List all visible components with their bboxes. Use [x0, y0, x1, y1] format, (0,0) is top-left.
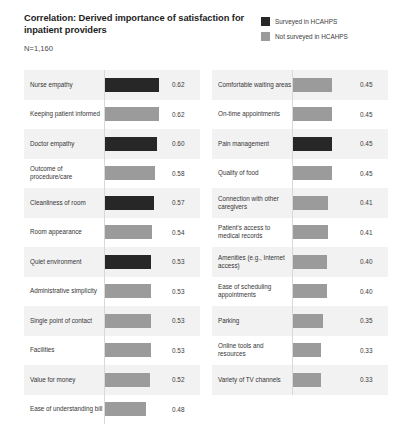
legend-item-surveyed: Surveyed in HCAHPS — [261, 16, 385, 26]
chart-value-label: 0.53 — [170, 258, 200, 265]
chart-bar — [292, 107, 332, 121]
chart-row: Pain management0.45 — [212, 129, 388, 159]
chart-bar-track — [104, 336, 170, 366]
chart-bar — [292, 196, 328, 210]
legend-item-not_surveyed: Not surveyed in HCAHPS — [261, 31, 385, 41]
chart-row: Ease of scheduling appointments0.40 — [212, 277, 388, 307]
chart-bar — [292, 137, 332, 151]
chart-bar-track — [292, 188, 358, 218]
legend-swatch-icon — [261, 32, 270, 41]
chart-row-label: Nurse empathy — [24, 81, 104, 89]
chart-header: Correlation: Derived importance of satis… — [24, 12, 264, 54]
chart-row: Comfortable waiting areas0.45 — [212, 70, 388, 100]
chart-row: Doctor empathy0.60 — [24, 129, 200, 159]
chart-value-label: 0.41 — [358, 199, 388, 206]
chart-bar — [292, 373, 321, 387]
chart-row: Patient's access to medical records0.41 — [212, 218, 388, 248]
chart-bar — [104, 284, 151, 298]
chart-bar-track — [104, 395, 170, 424]
chart-row: Online tools and resources0.33 — [212, 336, 388, 366]
chart-row-label: Outcome of procedure/care — [24, 165, 104, 181]
chart-row-label: Parking — [212, 317, 292, 325]
chart-value-label: 0.45 — [358, 81, 388, 88]
chart-row-label: Quiet environment — [24, 258, 104, 266]
chart-row: Keeping patient informed0.62 — [24, 100, 200, 130]
chart-bar — [104, 255, 151, 269]
chart-bar — [292, 166, 332, 180]
chart-bar — [104, 196, 154, 210]
sample-size-label: N=1,160 — [24, 44, 264, 54]
chart-legend: Surveyed in HCAHPSNot surveyed in HCAHPS — [261, 16, 385, 46]
chart-row-label: Single point of contact — [24, 317, 104, 325]
chart-value-label: 0.41 — [358, 229, 388, 236]
chart-row-label: Connection with other caregivers — [212, 195, 292, 211]
chart-row: Ease of understanding bill0.48 — [24, 395, 200, 424]
legend-swatch-icon — [261, 17, 270, 26]
chart-bar — [104, 373, 150, 387]
chart-bar — [104, 78, 159, 92]
chart-value-label: 0.53 — [170, 288, 200, 295]
chart-baseline — [292, 70, 293, 395]
chart-bar — [104, 343, 151, 357]
chart-value-label: 0.53 — [170, 317, 200, 324]
chart-row: Parking0.35 — [212, 306, 388, 336]
chart-row-label: Amenities (e.g., Internet access) — [212, 254, 292, 270]
chart-bar-track — [292, 70, 358, 100]
chart-row-label: Cleanliness of room — [24, 199, 104, 207]
chart-row-label: Administrative simplicity — [24, 287, 104, 295]
chart-row: Nurse empathy0.62 — [24, 70, 200, 100]
chart-bar — [292, 255, 327, 269]
chart-row: Amenities (e.g., Internet access)0.40 — [212, 247, 388, 277]
chart-row-label: Room appearance — [24, 228, 104, 236]
chart-row-label: Online tools and resources — [212, 342, 292, 358]
chart-row: Quiet environment0.53 — [24, 247, 200, 277]
chart-bar-track — [104, 247, 170, 277]
chart-bar — [104, 107, 159, 121]
chart-bar — [292, 284, 327, 298]
chart-row: Outcome of procedure/care0.58 — [24, 159, 200, 189]
chart-bar-track — [104, 218, 170, 248]
chart-column-right: Comfortable waiting areas0.45On-time app… — [212, 70, 388, 395]
chart-bar — [292, 78, 332, 92]
chart-bar — [292, 225, 328, 239]
chart-bar-track — [104, 277, 170, 307]
chart-bar-track — [104, 306, 170, 336]
chart-row-label: Comfortable waiting areas — [212, 81, 292, 89]
chart-row-label: Doctor empathy — [24, 140, 104, 148]
chart-bar-track — [292, 365, 358, 395]
chart-row: Variety of TV channels0.33 — [212, 365, 388, 395]
chart-bar-track — [104, 70, 170, 100]
chart-row: Connection with other caregivers0.41 — [212, 188, 388, 218]
chart-bar — [292, 343, 321, 357]
chart-value-label: 0.52 — [170, 376, 200, 383]
chart-bar-track — [292, 277, 358, 307]
chart-bar-track — [292, 100, 358, 130]
chart-row: On-time appointments0.45 — [212, 100, 388, 130]
chart-bar-track — [104, 129, 170, 159]
chart-row: Administrative simplicity0.53 — [24, 277, 200, 307]
chart-row-label: Patient's access to medical records — [212, 224, 292, 240]
chart-value-label: 0.40 — [358, 258, 388, 265]
chart-bar-track — [292, 159, 358, 189]
chart-value-label: 0.45 — [358, 140, 388, 147]
chart-row: Cleanliness of room0.57 — [24, 188, 200, 218]
chart-value-label: 0.45 — [358, 111, 388, 118]
chart-value-label: 0.40 — [358, 288, 388, 295]
chart-row-label: Quality of food — [212, 169, 292, 177]
chart-value-label: 0.45 — [358, 170, 388, 177]
chart-value-label: 0.33 — [358, 376, 388, 383]
chart-row-label: Ease of scheduling appointments — [212, 283, 292, 299]
chart-row-label: Variety of TV channels — [212, 376, 292, 384]
page-title: Correlation: Derived importance of satis… — [24, 12, 264, 37]
chart-row-label: Keeping patient informed — [24, 110, 104, 118]
chart-bar-track — [104, 159, 170, 189]
chart-row-label: Facilities — [24, 346, 104, 354]
chart-value-label: 0.48 — [170, 406, 200, 413]
chart-value-label: 0.60 — [170, 140, 200, 147]
chart-bar-track — [292, 247, 358, 277]
chart-row: Facilities0.53 — [24, 336, 200, 366]
chart-bar — [292, 314, 323, 328]
chart-bar-track — [104, 365, 170, 395]
chart-value-label: 0.35 — [358, 317, 388, 324]
